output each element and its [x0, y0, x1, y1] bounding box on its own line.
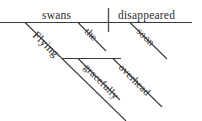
word-label-disappeared: disappeared: [118, 9, 175, 22]
word-label-the: the: [83, 26, 100, 43]
word-label-swans: swans: [42, 9, 71, 21]
word-label-soon: soon: [135, 26, 158, 49]
word-label-gracefully: gracefully: [82, 62, 122, 102]
diagram-svg: swans disappeared the soon Flying gracef…: [0, 0, 202, 121]
sentence-diagram: swans disappeared the soon Flying gracef…: [0, 0, 202, 121]
word-label-overhead: overhead: [117, 62, 154, 99]
word-label-flying: Flying: [30, 29, 62, 60]
